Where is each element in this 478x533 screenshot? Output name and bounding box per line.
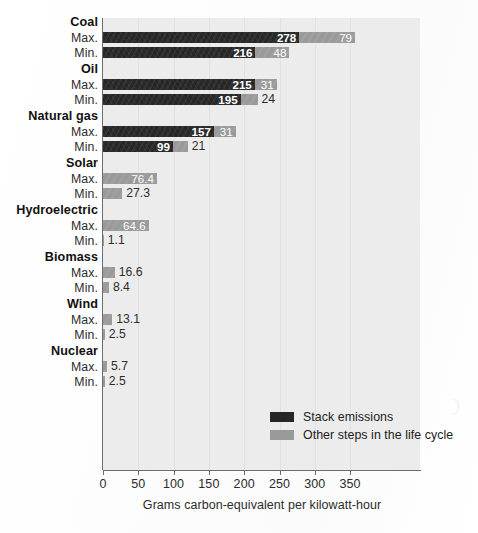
row-label-coal-min: Min. — [0, 46, 98, 60]
x-tick-250 — [280, 470, 281, 475]
value-stack-emissions: 157 — [191, 126, 213, 137]
bar-coal-max: 27879 — [103, 32, 355, 43]
row-label-wind-max: Max. — [0, 313, 98, 327]
segment-other-life-cycle: 27.3 — [103, 188, 122, 199]
value-stack-emissions: 278 — [277, 32, 299, 43]
value-other-life-cycle: 76.4 — [131, 173, 157, 184]
x-axis-title: Grams carbon-equivalent per kilowatt-hou… — [103, 498, 421, 512]
bar-biomass-max: 16.6 — [103, 267, 115, 278]
legend-label: Other steps in the life cycle — [303, 428, 453, 442]
segment-other-life-cycle: 2.5 — [103, 329, 105, 340]
bar-oil-min: 19524 — [103, 94, 258, 105]
bar-nuclear-min: 2.5 — [103, 376, 105, 387]
x-tick-350 — [350, 470, 351, 475]
bar-oil-max: 21531 — [103, 79, 277, 90]
row-label-nuclear-min: Min. — [0, 375, 98, 389]
segment-stack-emissions: 278 — [103, 32, 299, 43]
gridline-350 — [350, 18, 351, 470]
segment-other-life-cycle: 24 — [241, 94, 258, 105]
bar-natural-gas-min: 9921 — [103, 141, 188, 152]
row-label-biomass-max: Max. — [0, 266, 98, 280]
bar-solar-max: 76.4 — [103, 173, 157, 184]
x-tick-label-200: 200 — [224, 477, 264, 491]
bar-nuclear-max: 5.7 — [103, 361, 107, 372]
x-tick-100 — [174, 470, 175, 475]
segment-other-life-cycle: 79 — [299, 32, 355, 43]
segment-stack-emissions: 215 — [103, 79, 255, 90]
segment-stack-emissions: 216 — [103, 47, 255, 58]
value-other-life-cycle: 1.1 — [104, 235, 125, 246]
group-label-nuclear: Nuclear — [0, 344, 98, 358]
chart-legend: Stack emissionsOther steps in the life c… — [270, 409, 453, 445]
group-label-natural-gas: Natural gas — [0, 109, 98, 123]
legend-label: Stack emissions — [303, 410, 393, 424]
value-other-life-cycle: 48 — [273, 47, 289, 58]
bar-wind-min: 2.5 — [103, 329, 105, 340]
x-tick-label-0: 0 — [83, 477, 123, 491]
segment-stack-emissions: 195 — [103, 94, 241, 105]
value-stack-emissions: 195 — [218, 94, 240, 105]
value-other-life-cycle: 31 — [261, 79, 277, 90]
row-label-natural-gas-min: Min. — [0, 140, 98, 154]
x-axis-line — [103, 470, 421, 471]
x-tick-0 — [103, 470, 104, 475]
segment-other-life-cycle: 8.4 — [103, 282, 109, 293]
segment-stack-emissions: 99 — [103, 141, 173, 152]
legend-swatch-dark — [270, 412, 294, 422]
x-tick-label-250: 250 — [260, 477, 300, 491]
legend-item-other-life-cycle: Other steps in the life cycle — [270, 427, 453, 443]
row-label-coal-max: Max. — [0, 31, 98, 45]
value-other-life-cycle: 8.4 — [109, 282, 130, 293]
segment-other-life-cycle: 31 — [214, 126, 236, 137]
x-tick-200 — [244, 470, 245, 475]
segment-other-life-cycle: 16.6 — [103, 267, 115, 278]
group-label-coal: Coal — [0, 15, 98, 29]
value-other-life-cycle: 16.6 — [115, 267, 143, 278]
segment-other-life-cycle: 76.4 — [103, 173, 157, 184]
row-label-oil-max: Max. — [0, 78, 98, 92]
bar-hydroelectric-max: 64.6 — [103, 220, 149, 231]
value-other-life-cycle: 2.5 — [105, 376, 126, 387]
value-other-life-cycle: 79 — [339, 32, 355, 43]
legend-swatch-light — [270, 430, 294, 440]
segment-other-life-cycle: 64.6 — [103, 220, 149, 231]
row-label-natural-gas-max: Max. — [0, 125, 98, 139]
group-label-solar: Solar — [0, 156, 98, 170]
segment-stack-emissions: 157 — [103, 126, 214, 137]
legend-item-stack-emissions: Stack emissions — [270, 409, 453, 425]
segment-other-life-cycle: 2.5 — [103, 376, 105, 387]
row-label-hydroelectric-min: Min. — [0, 234, 98, 248]
value-other-life-cycle: 24 — [258, 94, 276, 105]
segment-other-life-cycle: 1.1 — [103, 235, 104, 246]
emissions-bar-chart: 050100150200250300350 CoalMax.27879Min.2… — [0, 0, 478, 533]
value-other-life-cycle: 2.5 — [105, 329, 126, 340]
value-other-life-cycle: 5.7 — [107, 361, 128, 372]
bar-wind-max: 13.1 — [103, 314, 112, 325]
row-label-oil-min: Min. — [0, 93, 98, 107]
group-label-wind: Wind — [0, 297, 98, 311]
group-label-hydroelectric: Hydroelectric — [0, 203, 98, 217]
row-label-hydroelectric-max: Max. — [0, 219, 98, 233]
row-label-solar-min: Min. — [0, 187, 98, 201]
segment-other-life-cycle: 13.1 — [103, 314, 112, 325]
x-tick-label-50: 50 — [118, 477, 158, 491]
segment-other-life-cycle: 21 — [173, 141, 188, 152]
value-other-life-cycle: 13.1 — [112, 314, 140, 325]
x-tick-label-150: 150 — [189, 477, 229, 491]
value-other-life-cycle: 21 — [188, 141, 206, 152]
x-tick-50 — [138, 470, 139, 475]
bar-natural-gas-max: 15731 — [103, 126, 236, 137]
gridline-300 — [315, 18, 316, 470]
value-stack-emissions: 99 — [157, 141, 173, 152]
group-label-biomass: Biomass — [0, 250, 98, 264]
segment-other-life-cycle: 48 — [255, 47, 289, 58]
x-tick-label-100: 100 — [154, 477, 194, 491]
value-stack-emissions: 215 — [232, 79, 254, 90]
row-label-solar-max: Max. — [0, 172, 98, 186]
value-other-life-cycle: 64.6 — [123, 220, 149, 231]
segment-other-life-cycle: 31 — [255, 79, 277, 90]
segment-other-life-cycle: 5.7 — [103, 361, 107, 372]
value-stack-emissions: 216 — [233, 47, 255, 58]
value-other-life-cycle: 27.3 — [122, 188, 150, 199]
bar-coal-min: 21648 — [103, 47, 289, 58]
